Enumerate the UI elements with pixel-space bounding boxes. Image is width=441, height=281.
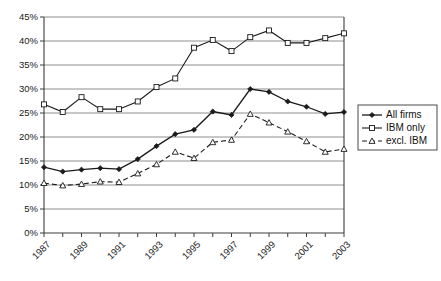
chart-svg: 0%5%10%15%20%25%30%35%40%45% 19871989199… — [0, 0, 441, 281]
data-point-ibm-only — [60, 110, 65, 115]
y-tick-label: 30% — [19, 83, 39, 94]
x-tick-label: 1999 — [255, 239, 278, 262]
data-point-excl-ibm — [247, 111, 253, 116]
x-tick-label: 1987 — [30, 239, 53, 262]
y-tick-label: 0% — [24, 227, 38, 238]
data-point-all-firms — [98, 166, 103, 171]
data-point-ibm-only — [98, 107, 103, 112]
data-point-ibm-only — [42, 102, 47, 107]
data-point-all-firms — [341, 109, 346, 114]
y-tick-label: 5% — [24, 203, 38, 214]
y-tick-label: 25% — [19, 107, 39, 118]
data-point-excl-ibm — [154, 161, 160, 166]
data-point-all-firms — [285, 99, 290, 104]
series-line-excl-ibm — [44, 114, 344, 186]
series-markers — [41, 28, 347, 188]
data-point-all-firms — [323, 111, 328, 116]
x-tick-label: 1997 — [217, 239, 240, 262]
data-point-ibm-only — [173, 76, 178, 81]
legend-label[interactable]: IBM only — [386, 122, 425, 133]
data-point-all-firms — [304, 104, 309, 109]
data-point-excl-ibm — [341, 146, 347, 151]
data-point-all-firms — [60, 169, 65, 174]
x-axis-tick-labels: 198719891991199319951997199920012003 — [30, 239, 353, 262]
x-tick-label: 1989 — [67, 239, 90, 262]
legend-marker-1 — [370, 126, 375, 131]
y-axis-tick-labels: 0%5%10%15%20%25%30%35%40%45% — [19, 11, 39, 238]
y-tick-label: 20% — [19, 131, 39, 142]
line-chart: 0%5%10%15%20%25%30%35%40%45% 19871989199… — [0, 0, 441, 281]
data-point-all-firms — [266, 89, 271, 94]
data-point-ibm-only — [192, 45, 197, 50]
x-tick-label: 1993 — [142, 239, 165, 262]
y-tick-label: 15% — [19, 155, 39, 166]
data-point-ibm-only — [267, 28, 272, 33]
data-point-ibm-only — [248, 35, 253, 40]
data-point-ibm-only — [135, 99, 140, 104]
y-tick-label: 40% — [19, 35, 39, 46]
data-point-ibm-only — [323, 36, 328, 41]
data-point-excl-ibm — [41, 180, 47, 185]
data-point-excl-ibm — [304, 138, 310, 143]
legend-label[interactable]: excl. IBM — [386, 135, 427, 146]
data-point-ibm-only — [229, 49, 234, 54]
data-point-ibm-only — [285, 40, 290, 45]
x-tick-label: 2003 — [330, 239, 353, 262]
data-point-excl-ibm — [172, 149, 178, 154]
data-point-ibm-only — [79, 95, 84, 100]
series-lines — [44, 30, 344, 185]
data-point-excl-ibm — [229, 137, 235, 142]
data-point-ibm-only — [117, 107, 122, 112]
legend-label[interactable]: All firms — [386, 109, 422, 120]
y-tick-label: 35% — [19, 59, 39, 70]
data-point-ibm-only — [342, 31, 347, 36]
x-tick-label: 2001 — [292, 239, 315, 262]
y-axis-tick-marks — [40, 17, 44, 233]
y-tick-label: 10% — [19, 179, 39, 190]
data-point-excl-ibm — [285, 129, 291, 134]
data-point-all-firms — [41, 165, 46, 170]
data-point-all-firms — [116, 167, 121, 172]
x-axis-tick-marks — [44, 233, 344, 237]
legend[interactable]: All firmsIBM onlyexcl. IBM — [358, 105, 437, 150]
data-point-excl-ibm — [266, 120, 272, 125]
data-point-ibm-only — [154, 85, 159, 90]
y-tick-label: 45% — [19, 11, 39, 22]
series-line-ibm-only — [44, 30, 344, 112]
x-tick-label: 1991 — [105, 239, 128, 262]
data-point-ibm-only — [304, 40, 309, 45]
data-point-ibm-only — [210, 38, 215, 43]
data-point-all-firms — [79, 167, 84, 172]
x-tick-label: 1995 — [180, 239, 203, 262]
data-point-excl-ibm — [135, 170, 141, 175]
